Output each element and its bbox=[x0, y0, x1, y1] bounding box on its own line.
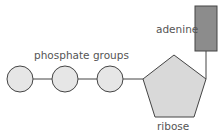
ribose-label: ribose bbox=[157, 121, 189, 132]
atp-diagram bbox=[0, 0, 219, 137]
phosphate-group-1 bbox=[7, 66, 33, 92]
ribose-pentagon bbox=[143, 55, 206, 117]
adenine-rectangle bbox=[195, 6, 217, 51]
phosphate-group-3 bbox=[97, 66, 123, 92]
phosphate-group-2 bbox=[52, 66, 78, 92]
adenine-label: adenine bbox=[156, 24, 198, 35]
phosphate-groups-label: phosphate groups bbox=[34, 50, 129, 61]
